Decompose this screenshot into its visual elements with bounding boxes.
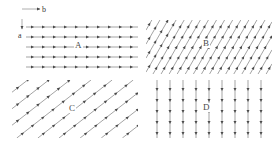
field-arrowhead <box>26 95 29 98</box>
field-arrowhead <box>260 110 263 113</box>
field-arrowhead <box>119 46 122 49</box>
field-arrowhead <box>42 66 45 69</box>
field-arrowhead <box>86 56 89 59</box>
field-arrowhead <box>234 88 237 91</box>
field-arrowhead <box>53 56 56 59</box>
field-arrowhead <box>182 110 185 113</box>
field-arrowhead <box>105 132 108 135</box>
field-arrowhead <box>119 36 122 39</box>
field-arrowhead <box>103 84 106 87</box>
field-line <box>146 20 160 44</box>
field-arrowhead <box>42 26 45 29</box>
field-arrowhead <box>41 116 44 119</box>
field-arrowhead <box>108 56 111 59</box>
field-arrowhead <box>221 110 224 113</box>
field-arrowhead <box>247 88 250 91</box>
field-arrowhead <box>75 36 78 39</box>
field-arrowhead <box>42 132 45 135</box>
field-arrowhead <box>26 112 29 115</box>
field-arrowhead <box>126 132 129 135</box>
field-arrowhead <box>221 121 224 124</box>
field-arrowhead <box>83 100 86 103</box>
vector-field-figure: b a A B C D <box>0 0 279 146</box>
axis-label-a: a <box>18 32 22 40</box>
field-arrowhead <box>182 132 185 135</box>
field-arrowhead <box>86 36 89 39</box>
field-arrowhead <box>247 121 250 124</box>
field-arrowhead <box>169 88 172 91</box>
field-arrowhead <box>104 100 107 103</box>
field-arrowhead <box>195 132 198 135</box>
field-arrowhead <box>97 66 100 69</box>
field-arrowhead <box>119 26 122 29</box>
field-arrowhead <box>195 121 198 124</box>
field-arrowhead <box>126 116 129 119</box>
field-arrowhead <box>16 87 19 90</box>
field-arrowhead <box>108 46 111 49</box>
field-arrowhead <box>53 36 56 39</box>
field-arrowhead <box>182 121 185 124</box>
field-arrowhead <box>62 100 65 103</box>
field-arrowhead <box>208 88 211 91</box>
panel-a-label: A <box>74 41 83 50</box>
field-arrowhead <box>260 99 263 102</box>
field-arrowhead <box>42 46 45 49</box>
field-arrowhead <box>114 92 117 95</box>
axis-label-b: b <box>42 6 46 14</box>
field-arrowhead <box>130 66 133 69</box>
field-arrowhead <box>130 56 133 59</box>
field-arrowhead <box>115 124 118 127</box>
field-arrowhead <box>97 46 100 49</box>
field-arrowhead <box>94 108 97 111</box>
field-arrowhead <box>156 99 159 102</box>
field-arrowhead <box>234 121 237 124</box>
panel-c-label: C <box>68 104 76 113</box>
field-arrowhead <box>83 116 86 119</box>
field-arrowhead <box>64 26 67 29</box>
field-arrowhead <box>75 26 78 29</box>
field-arrowhead <box>64 36 67 39</box>
field-arrowhead <box>195 110 198 113</box>
field-arrowhead <box>64 56 67 59</box>
field-arrowhead <box>75 56 78 59</box>
field-arrowhead <box>63 132 66 135</box>
field-arrowhead <box>51 108 54 111</box>
field-arrowhead <box>67 80 70 83</box>
field-arrowhead <box>234 132 237 135</box>
field-arrowhead <box>260 121 263 124</box>
field-arrowhead <box>156 132 159 135</box>
field-arrowhead <box>53 66 56 69</box>
field-arrowhead <box>64 46 67 49</box>
field-arrowhead <box>130 46 133 49</box>
field-arrowhead <box>195 88 198 91</box>
field-arrowhead <box>156 110 159 113</box>
field-arrowhead <box>234 110 237 113</box>
field-arrowhead <box>247 99 250 102</box>
panel-d-label: D <box>202 103 211 112</box>
field-arrowhead <box>86 66 89 69</box>
field-arrowhead <box>119 56 122 59</box>
field-arrowhead <box>108 36 111 39</box>
field-arrowhead <box>31 36 34 39</box>
field-arrowhead <box>247 110 250 113</box>
field-arrowhead <box>182 88 185 91</box>
field-line <box>80 93 138 138</box>
field-line <box>12 80 28 92</box>
field-arrowhead <box>57 88 60 91</box>
field-arrowhead <box>156 88 159 91</box>
panel-b-label: B <box>202 39 210 48</box>
field-arrowhead <box>221 88 224 91</box>
field-arrowhead <box>21 132 24 135</box>
field-arrowhead <box>31 66 34 69</box>
field-arrowhead <box>169 132 172 135</box>
field-line <box>12 80 70 125</box>
field-arrowhead <box>16 103 19 106</box>
field-arrowhead <box>108 66 111 69</box>
field-arrowhead <box>97 26 100 29</box>
field-arrowhead <box>221 132 224 135</box>
field-arrowhead <box>42 56 45 59</box>
field-arrowhead <box>72 92 75 95</box>
field-arrowhead <box>208 132 211 135</box>
field-arrowhead <box>97 36 100 39</box>
field-arrowhead <box>104 116 107 119</box>
